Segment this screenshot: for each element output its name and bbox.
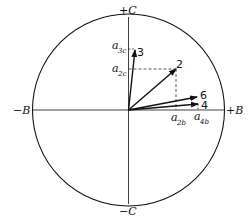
svg-text:3c: 3c	[118, 47, 126, 55]
vector-4-label: 4	[201, 99, 208, 112]
axis-label-minus-b: −B	[13, 104, 30, 117]
axis-label-plus-c: +C	[119, 4, 137, 17]
vector-diagram: 3 2 6 4 +C −C −B +B a 3c a 2c a 2b a 4b	[0, 0, 252, 220]
axis-label-minus-c: −C	[119, 205, 137, 218]
vector-4	[129, 104, 199, 110]
axis-label-plus-b: +B	[226, 104, 243, 117]
label-a4b: a 4b	[194, 110, 209, 126]
vector-3-label: 3	[137, 46, 144, 59]
svg-text:2c: 2c	[117, 70, 126, 78]
label-a2c: a 2c	[112, 62, 126, 78]
svg-text:4b: 4b	[199, 118, 209, 126]
svg-text:2b: 2b	[176, 119, 186, 127]
vector-3	[129, 50, 136, 110]
vector-6	[129, 97, 198, 110]
vector-2-label: 2	[176, 58, 183, 71]
label-a3c: a 3c	[112, 39, 126, 55]
label-a2b: a 2b	[171, 111, 186, 127]
vector-2	[129, 69, 177, 110]
